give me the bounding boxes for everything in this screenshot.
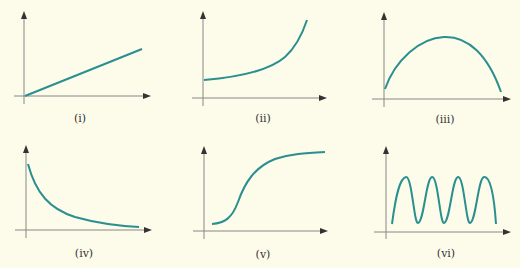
y-axis-arrowhead-icon <box>383 146 389 154</box>
curve-exponential-growth <box>204 20 307 80</box>
curve-sinusoidal <box>392 177 496 224</box>
curve-sigmoid <box>212 152 325 224</box>
caption-iii: (iii) <box>435 113 454 126</box>
caption-i: (i) <box>74 112 86 125</box>
curve-exponential-decay <box>28 164 139 227</box>
graph-panel-iii: (iii) <box>350 0 520 134</box>
x-axis-arrowhead-icon <box>503 96 511 102</box>
sinusoidal-graph <box>350 134 520 268</box>
y-axis-arrowhead-icon <box>381 12 387 20</box>
y-axis-arrowhead-icon <box>200 11 206 19</box>
x-axis-arrowhead-icon <box>144 227 152 233</box>
x-axis-arrowhead-icon <box>319 95 327 101</box>
caption-iv: (iv) <box>75 247 93 260</box>
x-axis-arrowhead-icon <box>503 229 511 235</box>
curve-parabola <box>385 37 501 92</box>
y-axis-arrowhead-icon <box>21 11 27 19</box>
y-axis-arrowhead-icon <box>23 145 29 153</box>
x-axis-arrowhead-icon <box>320 228 328 234</box>
graph-panel-iv: (iv) <box>0 134 180 268</box>
graph-panel-v: (v) <box>180 134 350 268</box>
x-axis-arrowhead-icon <box>143 93 151 99</box>
caption-vi: (vi) <box>437 247 455 260</box>
graph-panel-i: (i) <box>0 0 180 134</box>
linear-graph <box>0 0 180 134</box>
caption-v: (v) <box>256 248 271 261</box>
y-axis-arrowhead-icon <box>201 146 207 154</box>
graph-panel-vi: (vi) <box>350 134 520 268</box>
graph-panel-ii: (ii) <box>180 0 350 134</box>
curve-linear <box>25 49 142 96</box>
caption-ii: (ii) <box>255 112 271 125</box>
